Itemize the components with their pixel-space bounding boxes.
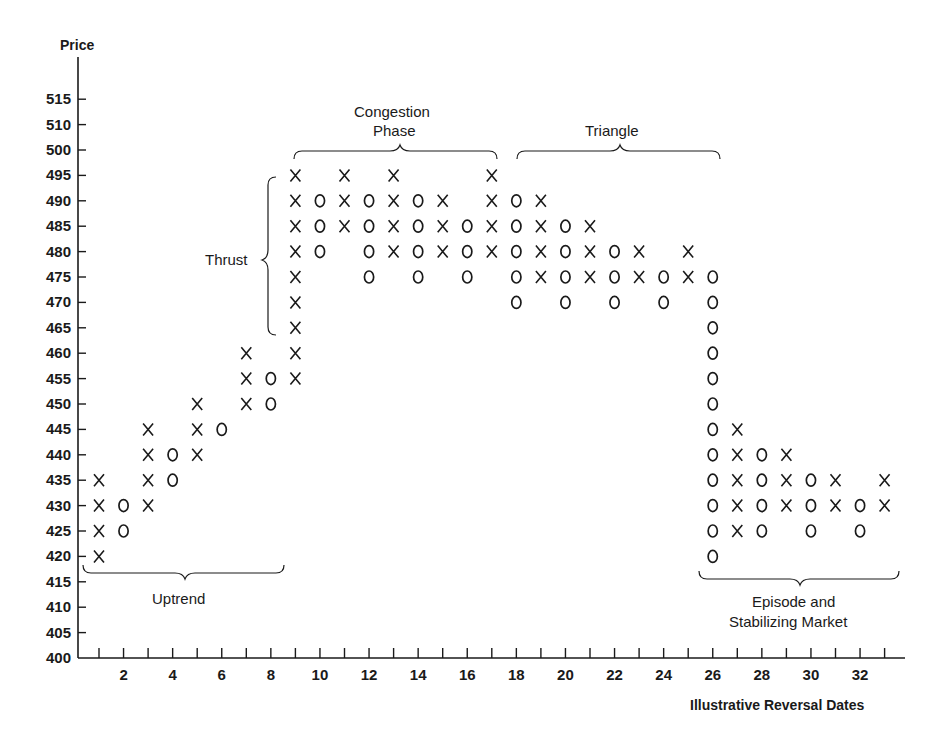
annotation-thrust: Thrust (205, 177, 276, 335)
y-tick-label: 420 (46, 547, 71, 564)
annotation-congestion: Congestion Phase (294, 103, 497, 159)
o-mark (561, 246, 570, 258)
x-mark (290, 347, 300, 359)
x-mark (389, 220, 399, 232)
x-tick-label: 12 (361, 666, 378, 683)
y-tick-label: 475 (46, 268, 71, 285)
x-mark (683, 271, 693, 283)
o-mark (512, 195, 521, 207)
o-mark (168, 474, 177, 486)
y-tick-label: 430 (46, 497, 71, 514)
x-mark (340, 220, 350, 232)
x-mark (585, 246, 595, 258)
x-mark (536, 246, 546, 258)
x-mark (880, 474, 890, 486)
x-tick-label: 22 (606, 666, 623, 683)
x-mark (192, 449, 202, 461)
o-mark (757, 474, 766, 486)
o-mark (855, 500, 864, 512)
o-mark (610, 271, 619, 283)
y-tick-label: 445 (46, 420, 71, 437)
o-mark (463, 220, 472, 232)
y-tick-label: 500 (46, 141, 71, 158)
x-mark (389, 246, 399, 258)
x-mark (732, 525, 742, 537)
x-mark (290, 271, 300, 283)
x-mark (732, 474, 742, 486)
label-episode-line2: Stabilizing Market (729, 613, 848, 630)
x-mark (634, 246, 644, 258)
o-mark (364, 220, 373, 232)
label-thrust: Thrust (205, 251, 248, 268)
annotation-episode: Episode and Stabilizing Market (699, 571, 899, 630)
o-mark (364, 271, 373, 283)
x-mark (290, 322, 300, 334)
x-mark (487, 169, 497, 181)
x-mark (389, 195, 399, 207)
x-mark (290, 195, 300, 207)
o-mark (708, 449, 717, 461)
brace-congestion (294, 145, 497, 159)
x-mark (487, 246, 497, 258)
annotation-triangle: Triangle (517, 122, 720, 159)
x-mark (634, 271, 644, 283)
o-mark (119, 525, 128, 537)
x-mark (487, 220, 497, 232)
o-mark (561, 271, 570, 283)
y-tick-label: 440 (46, 446, 71, 463)
o-mark (708, 322, 717, 334)
o-mark (512, 271, 521, 283)
x-tick-label: 4 (168, 666, 177, 683)
x-mark (241, 347, 251, 359)
x-tick-label: 14 (410, 666, 427, 683)
y-tick-label: 510 (46, 116, 71, 133)
o-mark (806, 525, 815, 537)
x-mark (831, 500, 841, 512)
x-mark (290, 296, 300, 308)
x-mark (536, 220, 546, 232)
x-mark (781, 474, 791, 486)
o-mark (708, 500, 717, 512)
x-mark (880, 500, 890, 512)
o-mark (855, 525, 864, 537)
o-mark (708, 296, 717, 308)
x-mark (831, 474, 841, 486)
o-mark (414, 195, 423, 207)
x-mark (732, 423, 742, 435)
o-mark (806, 500, 815, 512)
x-tick-label: 6 (218, 666, 226, 683)
x-axis-ticks: 2468101214161820222426283032 (99, 648, 885, 683)
axes (78, 57, 905, 658)
x-mark (732, 500, 742, 512)
y-tick-label: 470 (46, 293, 71, 310)
brace-triangle (517, 145, 720, 159)
x-mark (94, 550, 104, 562)
x-mark (290, 220, 300, 232)
x-tick-label: 8 (267, 666, 275, 683)
y-axis-title: Price (60, 37, 94, 53)
o-mark (659, 296, 668, 308)
y-tick-label: 515 (46, 90, 71, 107)
o-mark (414, 271, 423, 283)
label-congestion-line1: Congestion (354, 103, 430, 120)
o-mark (414, 220, 423, 232)
o-mark (168, 449, 177, 461)
y-tick-label: 400 (46, 649, 71, 666)
o-mark (708, 550, 717, 562)
o-mark (512, 246, 521, 258)
x-mark (241, 398, 251, 410)
o-mark (806, 474, 815, 486)
o-mark (757, 525, 766, 537)
x-mark (143, 423, 153, 435)
x-mark (143, 500, 153, 512)
y-tick-label: 425 (46, 522, 71, 539)
x-mark (781, 449, 791, 461)
x-axis-title: Illustrative Reversal Dates (690, 697, 865, 713)
o-mark (315, 220, 324, 232)
x-mark (94, 525, 104, 537)
point-and-figure-chart: Price 4004054104154204254304354404454504… (0, 0, 940, 742)
x-tick-label: 30 (803, 666, 820, 683)
annotation-uptrend: Uptrend (83, 565, 284, 607)
x-mark (536, 195, 546, 207)
x-tick-label: 28 (754, 666, 771, 683)
